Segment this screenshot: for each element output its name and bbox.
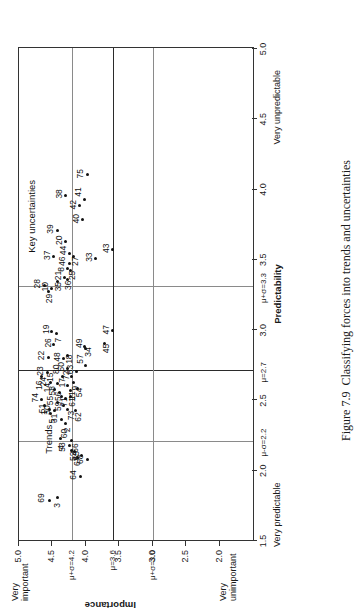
data-point-label: 38 [55, 189, 64, 198]
x-tick [252, 540, 257, 541]
x-tick [252, 399, 257, 400]
y-axis-high-label-line1: Very [10, 583, 20, 601]
data-point-label: 25 [68, 271, 77, 280]
data-point [64, 422, 67, 425]
data-point-label: 71 [60, 397, 69, 406]
data-point-label: 74 [31, 393, 40, 402]
x-tick-label: 2.0 [259, 464, 268, 477]
data-point [60, 418, 63, 421]
data-point-label: 16 [35, 380, 44, 389]
data-point [64, 194, 67, 197]
data-point-label: 49 [75, 339, 84, 348]
data-point [111, 329, 114, 332]
data-point-label: 64 [69, 470, 78, 479]
data-point-label: 29 [45, 294, 54, 303]
data-point [49, 381, 52, 384]
data-point [49, 412, 52, 415]
y-axis-low-label-line2: unimportant [228, 553, 238, 601]
data-point-label: 36 [64, 280, 73, 289]
data-point-label: 42 [69, 200, 78, 209]
data-point [53, 388, 56, 391]
y-tick [51, 541, 52, 546]
data-point-label: 8 [57, 267, 66, 272]
data-point [63, 276, 66, 279]
y-tick-label: 2.5 [181, 550, 190, 563]
figure-caption: Figure 7.9 Classifying forces into trend… [339, 160, 354, 441]
figure-caption-number: Figure 7.9 [339, 392, 353, 441]
data-point [83, 198, 86, 201]
data-point-label: 26 [44, 338, 53, 347]
href-line-3 [153, 48, 154, 540]
data-point-label: 21 [54, 271, 63, 280]
x-tick-label: 2.5 [259, 394, 268, 407]
data-point-label: 43 [102, 244, 111, 253]
x-tick [252, 259, 257, 260]
data-point-label: 44 [59, 246, 68, 255]
data-point [86, 173, 89, 176]
x-tick-label: 1.5 [259, 535, 268, 548]
data-point [64, 241, 67, 244]
x-tick [252, 329, 257, 330]
y-tick [185, 541, 186, 546]
data-point-label: 35 [54, 282, 63, 291]
data-point [68, 252, 71, 255]
data-point [66, 267, 69, 270]
y-axis-title: Importance [85, 600, 136, 611]
quadrant-label: Key uncertainties [26, 180, 37, 253]
data-point [70, 439, 73, 442]
y-axis-low-label: Very unimportant [218, 553, 238, 601]
y-axis-low-label-line1: Very [218, 583, 228, 601]
data-point [48, 499, 51, 502]
data-point-label: 2 [63, 428, 72, 433]
data-point-label: 52 [69, 452, 78, 461]
y-axis-high-label-line2: important [20, 563, 30, 601]
data-point-label: 19 [42, 325, 51, 334]
data-point-label: 27 [71, 257, 80, 266]
data-point [56, 229, 59, 232]
data-point [46, 371, 49, 374]
data-point [75, 370, 78, 373]
data-point-label: 20 [55, 236, 64, 245]
data-point-label: 47 [102, 325, 111, 334]
data-point-label: 22 [37, 351, 46, 360]
data-point-label: 9 [71, 386, 80, 391]
y-tick [118, 541, 119, 546]
href-line-4.2 [72, 48, 73, 540]
data-point [111, 248, 114, 251]
y-tick [18, 541, 19, 546]
y-tick [219, 541, 220, 546]
data-point-label: 45 [102, 344, 111, 353]
data-point [84, 364, 87, 367]
data-point-label: 28 [33, 279, 42, 288]
data-point-label: 62 [74, 412, 83, 421]
data-point [43, 284, 46, 287]
x-tick-label: 4.5 [259, 113, 268, 126]
data-point [81, 218, 84, 221]
data-point-label: 33 [85, 252, 94, 261]
data-point [55, 332, 58, 335]
y-ref-label: μ+σ=3.0 [147, 550, 156, 580]
quadrant-label: Trends [43, 425, 54, 454]
x-ref-label: μ-σ=2.2 [259, 429, 268, 457]
x-tick [252, 470, 257, 471]
data-point-label: 48 [53, 352, 62, 361]
data-point [94, 257, 97, 260]
data-point-label: 39 [46, 224, 55, 233]
x-tick [252, 118, 257, 119]
y-axis-high-label: Very important [10, 563, 30, 601]
y-tick-label: 5.0 [14, 550, 23, 563]
data-point [78, 204, 81, 207]
data-point-label: 3 [53, 503, 62, 508]
x-tick-label: 3.0 [259, 324, 268, 337]
data-point [47, 356, 50, 359]
data-point-label: 23 [36, 366, 45, 375]
figure-caption-text: Classifying forces into trends and uncer… [339, 160, 353, 386]
x-axis-high-label: Very unpredictable [272, 70, 282, 145]
data-point-label: 75 [76, 169, 85, 178]
data-point-label: 34 [84, 347, 93, 356]
data-point-label: 46 [58, 257, 67, 266]
x-tick [252, 48, 257, 49]
data-point [58, 391, 61, 394]
x-axis-low-label: Very predictable [272, 482, 282, 547]
